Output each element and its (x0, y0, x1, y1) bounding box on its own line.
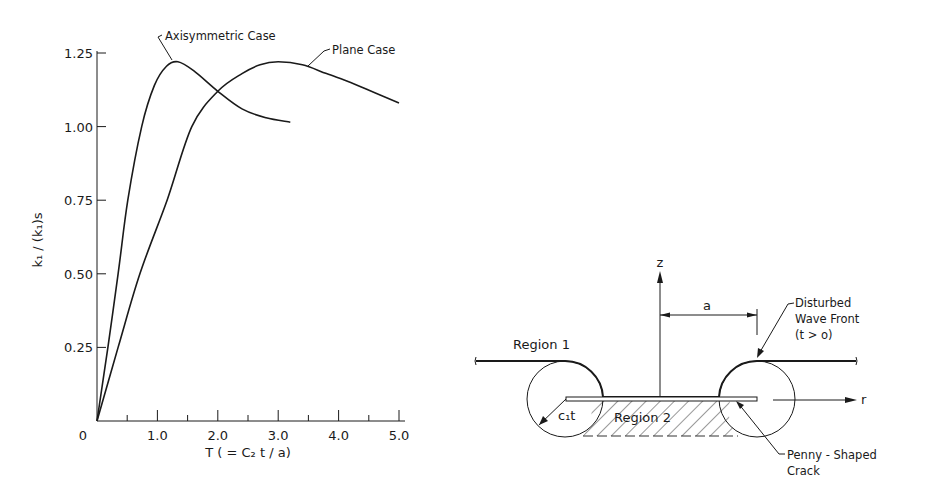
radius-label: c₁t (558, 408, 575, 423)
x-axis-title: T ( = C₂ t / a) (204, 445, 291, 460)
region1-label: Region 1 (513, 337, 570, 352)
wave-front-label-1: Disturbed (795, 296, 851, 310)
y-axis-title: k₁ / (k₁)s (30, 212, 45, 267)
series-layer (97, 62, 399, 421)
wave-front-label-2: Wave Front (795, 312, 860, 326)
left-wave-front (476, 361, 660, 397)
right-break-mark (856, 357, 857, 365)
x-tick-label: 1.0 (147, 428, 168, 443)
z-arrow-head (657, 271, 663, 283)
plane-annotation: Plane Case (308, 43, 395, 66)
crack-leader (738, 403, 785, 454)
x-tick-label: 0 (79, 428, 87, 443)
crack-label-1: Penny - Shaped (787, 448, 877, 462)
series-axisymmetric-case (97, 62, 290, 421)
wave-front-label-3: (t > o) (795, 328, 832, 342)
crack-label-2: Crack (787, 464, 820, 478)
x-tick-label: 4.0 (328, 428, 349, 443)
region2-label: Region 2 (614, 410, 671, 425)
wave-front-leader-arrow (757, 348, 764, 358)
wave-front-leader (760, 303, 794, 352)
y-tick-label: 0.75 (64, 193, 93, 208)
x-tick-label: 5.0 (389, 428, 410, 443)
y-tick-label: 1.00 (64, 120, 93, 135)
r-arrow-head (845, 397, 857, 403)
r-axis-label: r (861, 392, 867, 407)
axisymmetric-annotation: Axisymmetric Case (158, 29, 276, 60)
dimension-a-label: a (703, 298, 711, 313)
axes (97, 51, 405, 421)
y-tick-label: 0.25 (64, 340, 93, 355)
x-tick-label: 2.0 (207, 428, 228, 443)
z-axis-label: z (657, 255, 664, 270)
dimension-a-arrow-right (747, 313, 757, 318)
plane-leader (308, 49, 330, 66)
crack-leader-arrow (736, 401, 744, 409)
y-tick-label: 1.25 (64, 46, 93, 61)
right-wave-front (660, 361, 856, 397)
plane-label: Plane Case (332, 43, 395, 57)
x-tick-label: 3.0 (268, 428, 289, 443)
penny-shaped-crack (566, 397, 757, 401)
crack-diagram: z a r Region 1 Region 2 c₁t Disturbed Wa… (475, 255, 877, 478)
chart: 01.02.03.04.05.00.250.500.751.001.25 T (… (0, 0, 928, 499)
y-tick-label: 0.50 (64, 267, 93, 282)
left-break-mark (475, 357, 476, 365)
dimension-a-arrow-left (660, 313, 670, 318)
series-plane-case (97, 62, 399, 421)
axisymmetric-label: Axisymmetric Case (165, 29, 276, 43)
